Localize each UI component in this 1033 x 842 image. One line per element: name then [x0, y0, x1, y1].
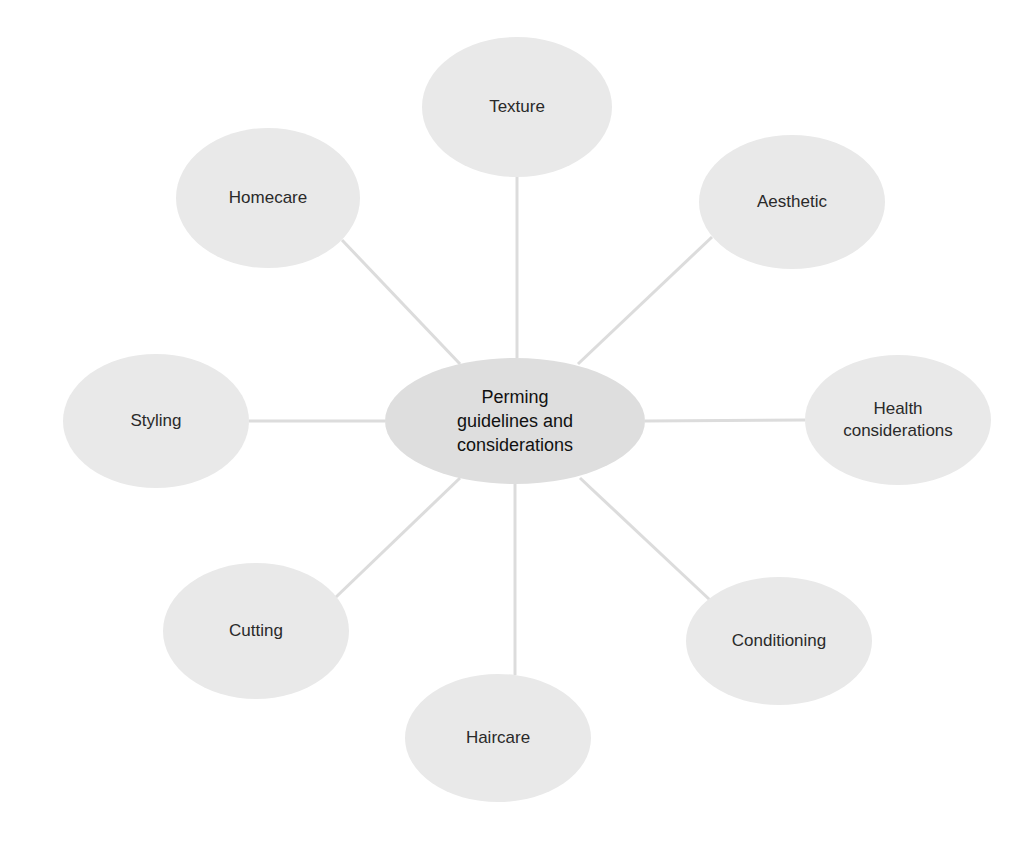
- node-label: Permingguidelines andconsiderations: [457, 385, 573, 457]
- node-label: Conditioning: [732, 630, 827, 652]
- node-label: Styling: [130, 410, 181, 432]
- node-label-line: Haircare: [466, 727, 530, 749]
- node-texture: Texture: [422, 37, 612, 177]
- node-label-line: considerations: [457, 433, 573, 457]
- central-node: Permingguidelines andconsiderations: [385, 358, 645, 484]
- node-label-line: Perming: [457, 385, 573, 409]
- connector-cutting: [335, 478, 460, 598]
- node-label: Homecare: [229, 187, 307, 209]
- node-label: Haircare: [466, 727, 530, 749]
- connector-health: [645, 420, 805, 421]
- node-label: Cutting: [229, 620, 283, 642]
- node-cutting: Cutting: [163, 563, 349, 699]
- node-label: Texture: [489, 96, 545, 118]
- node-styling: Styling: [63, 354, 249, 488]
- node-label-line: guidelines and: [457, 409, 573, 433]
- node-aesthetic: Aesthetic: [699, 135, 885, 269]
- node-label-line: considerations: [843, 420, 953, 442]
- node-conditioning: Conditioning: [686, 577, 872, 705]
- node-label-line: Aesthetic: [757, 191, 827, 213]
- node-haircare: Haircare: [405, 674, 591, 802]
- node-label-line: Cutting: [229, 620, 283, 642]
- node-label-line: Texture: [489, 96, 545, 118]
- node-label-line: Homecare: [229, 187, 307, 209]
- node-health: Healthconsiderations: [805, 355, 991, 485]
- connector-conditioning: [580, 478, 710, 600]
- node-label-line: Health: [843, 398, 953, 420]
- node-homecare: Homecare: [176, 128, 360, 268]
- node-label: Healthconsiderations: [843, 398, 953, 442]
- connector-aesthetic: [578, 237, 712, 364]
- connector-homecare: [342, 240, 460, 364]
- node-label-line: Styling: [130, 410, 181, 432]
- node-label-line: Conditioning: [732, 630, 827, 652]
- node-label: Aesthetic: [757, 191, 827, 213]
